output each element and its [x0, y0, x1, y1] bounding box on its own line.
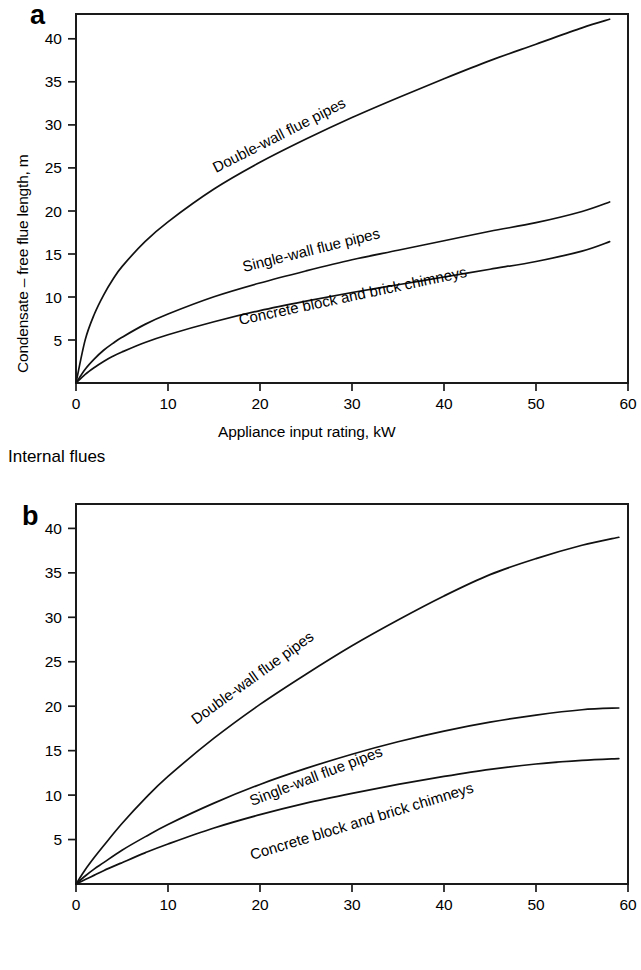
y-tick-label: 10 [45, 289, 63, 306]
y-tick-label: 20 [45, 698, 63, 715]
curve-single-wall-b [76, 708, 619, 884]
x-tick-label: 0 [72, 896, 81, 913]
panel-internal-flues: a Condensate – free flue length, m Appli… [0, 0, 641, 485]
x-tick-label: 60 [619, 395, 637, 412]
x-tick-label: 30 [343, 896, 361, 913]
y-tick-label: 15 [45, 742, 62, 759]
y-tick-label: 20 [45, 203, 63, 220]
x-tick-label: 20 [251, 395, 269, 412]
series-label-concrete-block-a: Concrete block and brick chimneys [237, 263, 468, 328]
curve-double-wall-a [76, 19, 610, 383]
y-tick-label: 30 [45, 116, 63, 133]
x-ticks-b [76, 884, 628, 892]
y-tick-label: 25 [45, 653, 62, 670]
x-tick-label: 0 [72, 395, 81, 412]
x-tick-labels-b: 0102030405060 [72, 896, 637, 913]
y-tick-label: 30 [45, 609, 63, 626]
series-label-double-wall-a: Double-wall flue pipes [210, 94, 348, 176]
x-tick-label: 30 [343, 395, 361, 412]
curve-concrete-block-a [76, 242, 610, 383]
y-tick-label: 25 [45, 159, 62, 176]
x-ticks-a [76, 383, 628, 391]
plot-area-a: 5 10 15 20 25 30 35 40 0 10 20 30 40 50 … [0, 0, 641, 485]
x-tick-label: 50 [527, 896, 545, 913]
panel-external-flues: b Condensate – free flue length, m Appli… [0, 485, 641, 970]
y-tick-label: 5 [53, 831, 62, 848]
y-ticks-b [68, 528, 76, 839]
plot-area-b: 5101520253035400102030405060Double-wall … [0, 485, 641, 970]
y-tick-label: 40 [45, 520, 63, 537]
y-tick-label: 10 [45, 787, 63, 804]
series-label-double-wall-b: Double-wall flue pipes [188, 627, 317, 727]
y-tick-label: 35 [45, 564, 62, 581]
x-tick-label: 20 [251, 896, 269, 913]
y-tick-label: 15 [45, 246, 62, 263]
x-tick-label: 50 [527, 395, 545, 412]
y-tick-labels-b: 510152025303540 [45, 520, 63, 848]
series-label-single-wall-b: Single-wall flue pipes [247, 742, 385, 808]
y-tick-labels-a: 5 10 15 20 25 30 35 40 [45, 30, 63, 348]
axis-frame-a [76, 14, 628, 383]
y-tick-label: 5 [53, 332, 62, 349]
y-tick-label: 35 [45, 73, 62, 90]
curves-a [76, 19, 610, 383]
x-tick-labels-a: 0 10 20 30 40 50 60 [72, 395, 637, 412]
series-label-single-wall-a: Single-wall flue pipes [241, 224, 382, 275]
x-tick-label: 60 [619, 896, 637, 913]
y-ticks-a [68, 39, 76, 340]
x-tick-label: 40 [435, 395, 453, 412]
x-tick-label: 10 [159, 395, 177, 412]
x-tick-label: 10 [159, 896, 177, 913]
x-tick-label: 40 [435, 896, 453, 913]
y-tick-label: 40 [45, 30, 63, 47]
